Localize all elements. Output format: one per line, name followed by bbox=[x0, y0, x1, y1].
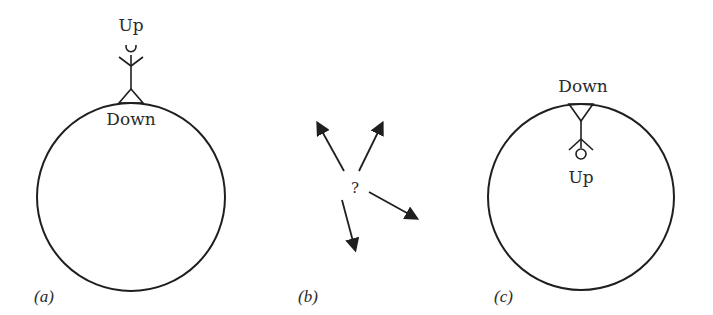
panel-c: Down Up (c) bbox=[488, 76, 674, 306]
label-up-a: Up bbox=[118, 15, 143, 35]
question-mark: ? bbox=[351, 179, 359, 197]
globe-circle-a bbox=[37, 103, 225, 291]
arrow-up-right bbox=[359, 124, 382, 171]
panel-a: Up Down (a) bbox=[34, 15, 225, 306]
stick-figure-inverted bbox=[569, 104, 593, 159]
label-up-c: Up bbox=[568, 167, 593, 187]
diagram-canvas: Up Down (a) ? (b) Down Up (c) bbox=[0, 0, 713, 315]
arrow-up-left bbox=[318, 124, 344, 171]
caption-a: (a) bbox=[34, 287, 54, 306]
arrow-down-right bbox=[369, 192, 416, 218]
arrow-down bbox=[342, 200, 355, 249]
label-down-a: Down bbox=[106, 109, 155, 129]
label-down-c: Down bbox=[558, 76, 607, 96]
panel-b: ? (b) bbox=[298, 124, 416, 306]
caption-b: (b) bbox=[298, 287, 318, 306]
caption-c: (c) bbox=[494, 287, 513, 306]
stick-figure-upright bbox=[119, 45, 143, 103]
